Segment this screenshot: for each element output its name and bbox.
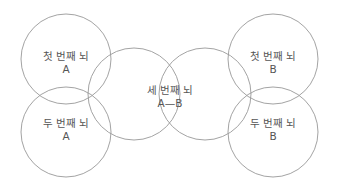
label-title: 두 번째 뇌 <box>43 117 90 130</box>
label-sub: A <box>43 130 90 143</box>
label-sub: B <box>250 63 297 76</box>
label-first-brain-b: 첫 번째 뇌 B <box>250 50 297 76</box>
label-sub: B <box>250 130 297 143</box>
label-sub: A <box>43 63 90 76</box>
label-title: 두 번째 뇌 <box>250 117 297 130</box>
label-first-brain-a: 첫 번째 뇌 A <box>43 50 90 76</box>
label-third-brain: 세 번째 뇌 A—B <box>147 84 194 110</box>
label-title: 첫 번째 뇌 <box>43 50 90 63</box>
label-sub: A—B <box>147 97 194 110</box>
label-second-brain-a: 두 번째 뇌 A <box>43 117 90 143</box>
label-title: 첫 번째 뇌 <box>250 50 297 63</box>
label-second-brain-b: 두 번째 뇌 B <box>250 117 297 143</box>
label-title: 세 번째 뇌 <box>147 84 194 97</box>
